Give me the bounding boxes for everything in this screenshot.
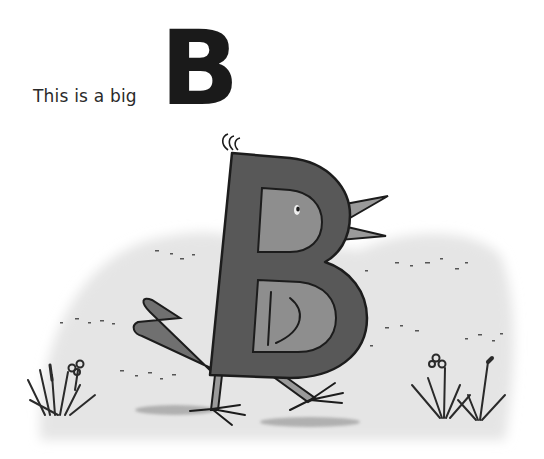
head-feathers [223, 134, 240, 150]
eye [294, 205, 300, 215]
bird-illustration [0, 0, 544, 459]
